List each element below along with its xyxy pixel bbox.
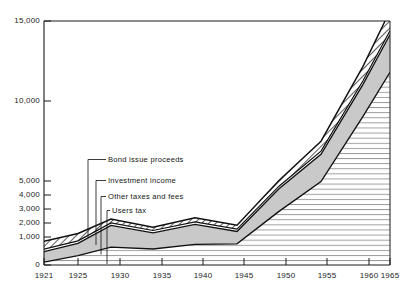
xtick-label-1940: 1940	[187, 271, 219, 280]
ytick-label-4000: 4,000	[0, 190, 40, 199]
ytick-label-15000: 15,000	[0, 16, 40, 25]
area-chart-plot	[0, 0, 403, 295]
ytick-label-0: 0	[0, 260, 40, 269]
xtick-label-1921: 1921	[28, 271, 60, 280]
ytick-label-2000: 2,000	[0, 218, 40, 227]
ytick-label-10000: 10,000	[0, 96, 40, 105]
y-axis-ticks	[44, 21, 51, 265]
xtick-label-1950: 1950	[270, 271, 302, 280]
annotation-bond-issue-proceeds: Bond issue proceeds	[108, 155, 184, 164]
xtick-label-1955: 1955	[311, 271, 343, 280]
ytick-label-3000: 3,000	[0, 204, 40, 213]
annotation-other-taxes-and-fees: Other taxes and fees	[108, 192, 184, 201]
ytick-label-1000: 1,000	[0, 232, 40, 241]
xtick-label-1930: 1930	[104, 271, 136, 280]
annotation-users-tax: Users tax	[112, 206, 146, 215]
xtick-label-1945: 1945	[228, 271, 260, 280]
ytick-label-5000: 5,000	[0, 176, 40, 185]
xtick-label-1925: 1925	[62, 271, 94, 280]
chart-figure: 15,000 10,000 5,000 4,000 3,000 2,000 1,…	[0, 0, 403, 295]
xtick-label-1935: 1935	[146, 271, 178, 280]
xtick-label-1965: 1965	[374, 271, 403, 280]
annotation-investment-income: Investment income	[108, 176, 176, 185]
